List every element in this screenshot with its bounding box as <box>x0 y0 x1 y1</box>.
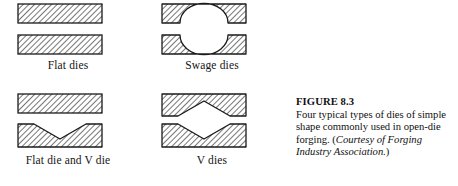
v-dies-drawing <box>152 92 272 152</box>
panel-label-v-dies: V dies <box>152 154 272 167</box>
figure-caption-title: FIGURE 8.3 <box>296 96 456 109</box>
panel-label-swage-dies: Swage dies <box>152 59 272 72</box>
figure-caption-close: ) <box>386 146 390 157</box>
panel-flat-die-and-v-die: Flat die and V die <box>8 92 128 174</box>
panel-label-flat-dies: Flat dies <box>8 59 128 72</box>
flat-die-and-v-die-upper-die <box>18 94 102 113</box>
figure-8-3: Flat dies Swage dies Flat die and V die … <box>0 0 458 186</box>
figure-caption-body: Four typical types of dies of simple sha… <box>296 109 456 159</box>
v-dies-lower-die <box>162 124 246 147</box>
panel-flat-dies: Flat dies <box>8 2 128 80</box>
v-dies-upper-die <box>162 94 246 116</box>
panel-swage-dies: Swage dies <box>152 2 272 80</box>
panel-label-flat-die-and-v-die: Flat die and V die <box>8 154 128 167</box>
panel-v-dies: V dies <box>152 92 272 174</box>
swage-dies-lower-die <box>162 35 246 55</box>
flat-dies-upper-die <box>18 4 102 23</box>
flat-die-and-v-die-lower-die <box>18 124 102 147</box>
figure-caption: FIGURE 8.3 Four typical types of dies of… <box>296 96 456 159</box>
flat-die-and-v-die-drawing <box>8 92 128 152</box>
flat-dies-drawing <box>8 2 128 58</box>
flat-dies-lower-die <box>18 35 102 54</box>
swage-dies-upper-die <box>162 3 246 23</box>
swage-dies-drawing <box>152 2 272 58</box>
